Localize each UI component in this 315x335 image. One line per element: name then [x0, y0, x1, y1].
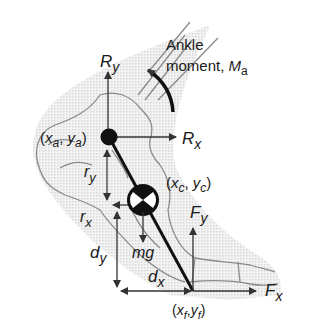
rx-label: Rx — [182, 129, 202, 152]
foot-free-body-diagram: Ry Rx Ankle moment, Ma (xa, ya) (xc, yc)… — [0, 0, 315, 335]
mg-label: mg — [132, 244, 154, 261]
foot-coordinate-label: (xf,yf) — [172, 302, 205, 321]
ankle-joint-dot — [101, 129, 118, 146]
center-of-mass-icon — [127, 184, 159, 216]
ankle-moment-label-line1: Ankle — [166, 36, 204, 53]
